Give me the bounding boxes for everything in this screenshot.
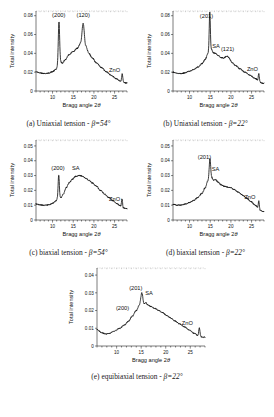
x-tick-label: 25 [112, 95, 118, 100]
x-axis-title: Bragg angle 2θ [200, 102, 238, 108]
x-tick-label: 15 [208, 224, 214, 229]
caption-a: (a) Uniaxial tension - β=54° [27, 120, 111, 129]
plot-d: 00.010.020.030.040.0510152025Bragg angle… [143, 132, 268, 248]
caption-e: (e) equibiaxial tension - β=22° [91, 373, 182, 382]
peak-label: ZnO [109, 67, 121, 73]
x-tick-label: 25 [249, 95, 255, 100]
svg-text:Total intensity: Total intensity [9, 162, 15, 196]
peak-label: ZnO [244, 193, 256, 199]
y-tick-label: 0.04 [24, 51, 33, 56]
y-tick-label: 0.01 [24, 202, 33, 207]
svg-text:Total intensity: Total intensity [9, 34, 15, 68]
x-tick-label: 25 [249, 224, 255, 229]
x-axis-title: Bragg angle 2θ [63, 102, 101, 108]
x-tick-label: 10 [187, 224, 193, 229]
plot-top-frame [173, 140, 264, 142]
x-tick-label: 10 [50, 224, 56, 229]
peak-label: (120) [77, 12, 90, 18]
y-tick-label: 0.08 [24, 13, 33, 18]
y-tick-label: 0 [30, 217, 33, 222]
caption-b: (b) Uniaxial tension - β=22° [163, 120, 247, 129]
x-tick-label: 10 [114, 350, 120, 355]
y-tick-label: 0.02 [161, 188, 170, 193]
x-tick-label: 15 [71, 95, 77, 100]
y-axis-title: Total intensity [9, 34, 15, 68]
caption-d: (d) biaxial tension - β=22° [166, 249, 245, 258]
y-axis-title: Total intensity [146, 162, 152, 196]
xrd-curve [36, 22, 127, 83]
panel-b: 00.020.040.060.0810152025Bragg angle 2θT… [137, 0, 274, 129]
peak-label: (201) [198, 153, 211, 159]
x-tick-label: 20 [91, 95, 97, 100]
x-tick-label: 10 [50, 95, 56, 100]
plot-top-frame [97, 268, 205, 270]
peak-label: SA [212, 166, 220, 172]
y-tick-label: 0.04 [85, 273, 94, 278]
y-tick-label: 0 [30, 89, 33, 94]
panel-a: 00.020.040.060.0810152025Bragg angle 2θT… [0, 0, 137, 129]
peak-label: ZnO [247, 66, 259, 72]
panel-d: 00.010.020.030.040.0510152025Bragg angle… [137, 129, 274, 258]
plot-a: 00.020.040.060.0810152025Bragg angle 2θT… [6, 3, 131, 119]
caption-c: (c) biaxial tension - β=54° [29, 249, 108, 258]
y-tick-label: 0.05 [24, 143, 33, 148]
y-tick-label: 0.02 [24, 188, 33, 193]
plot-b: 00.020.040.060.0810152025Bragg angle 2θT… [143, 3, 268, 119]
figure-row-1: 00.020.040.060.0810152025Bragg angle 2θT… [0, 0, 274, 129]
xrd-figure-panel-grid: 00.020.040.060.0810152025Bragg angle 2θT… [0, 0, 274, 417]
y-tick-label: 0.05 [161, 143, 170, 148]
y-axis-title: Total intensity [9, 162, 15, 196]
y-tick-label: 0 [167, 217, 170, 222]
x-tick-label: 25 [188, 350, 194, 355]
peak-label: SA [72, 164, 80, 170]
xrd-curve [36, 175, 127, 209]
peak-label: ZnO [182, 320, 194, 326]
x-tick-label: 15 [208, 95, 214, 100]
figure-row-2: 00.010.020.030.040.0510152025Bragg angle… [0, 129, 274, 258]
peak-label: (201) [200, 13, 213, 19]
y-tick-label: 0.06 [161, 32, 170, 37]
plot-c: 00.010.020.030.040.0510152025Bragg angle… [6, 132, 131, 248]
x-axis-title: Bragg angle 2θ [132, 357, 170, 363]
xrd-curve [97, 293, 205, 338]
y-tick-label: 0.03 [161, 173, 170, 178]
x-tick-label: 15 [139, 350, 145, 355]
svg-text:Total intensity: Total intensity [146, 34, 152, 68]
panel-c: 00.010.020.030.040.0510152025Bragg angle… [0, 129, 137, 258]
y-tick-label: 0.04 [24, 158, 33, 163]
plot-e: 00.010.020.030.0410152025Bragg angle 2θT… [63, 260, 211, 372]
peak-label: (200) [51, 165, 64, 171]
svg-text:Total intensity: Total intensity [146, 162, 152, 196]
figure-row-3: 00.010.020.030.0410152025Bragg angle 2θT… [0, 257, 274, 382]
peak-label: SA [145, 290, 153, 296]
y-tick-label: 0.03 [85, 291, 94, 296]
x-axis-title: Bragg angle 2θ [63, 230, 101, 236]
y-tick-label: 0.01 [85, 326, 94, 331]
peak-label: SA [212, 43, 220, 49]
x-tick-label: 20 [228, 95, 234, 100]
y-tick-label: 0.04 [161, 158, 170, 163]
peak-label: (201) [129, 285, 142, 291]
y-tick-label: 0.03 [24, 173, 33, 178]
x-axis-title: Bragg angle 2θ [200, 230, 238, 236]
x-tick-label: 25 [112, 224, 118, 229]
svg-text:Total intensity: Total intensity [68, 290, 74, 324]
y-tick-label: 0.02 [85, 308, 94, 313]
y-tick-label: 0 [91, 344, 94, 349]
x-tick-label: 10 [187, 95, 193, 100]
y-tick-label: 0 [167, 89, 170, 94]
y-tick-label: 0.08 [161, 13, 170, 18]
y-tick-label: 0.04 [161, 51, 170, 56]
y-tick-label: 0.02 [24, 70, 33, 75]
peak-label: ZnO [109, 196, 121, 202]
plot-top-frame [36, 140, 127, 142]
peak-label: (121) [221, 46, 234, 52]
y-tick-label: 0.02 [161, 70, 170, 75]
plot-top-frame [173, 11, 264, 13]
x-tick-label: 15 [71, 224, 77, 229]
x-tick-label: 20 [91, 224, 97, 229]
x-tick-label: 20 [228, 224, 234, 229]
peak-label: (200) [52, 12, 65, 18]
x-tick-label: 20 [163, 350, 169, 355]
y-axis-title: Total intensity [68, 290, 74, 324]
